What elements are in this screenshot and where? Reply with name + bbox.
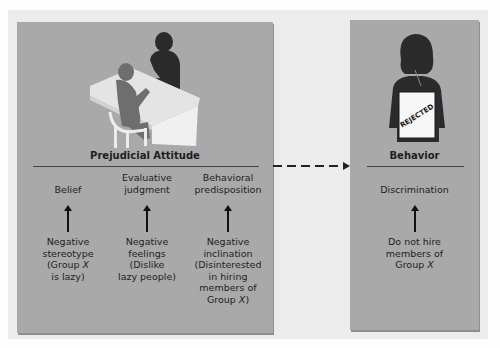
- up-arrow-icon: [67, 210, 69, 232]
- evaluative-judgment-column: Evaluative judgment Negative feelings (D…: [106, 172, 188, 312]
- arrowhead-icon: [343, 162, 350, 170]
- desc-line: inclination: [186, 248, 270, 260]
- label-line: Discrimination: [354, 184, 475, 196]
- interview-at-desk-icon: [88, 26, 208, 148]
- behavioral-predisposition-label: Behavioral predisposition: [186, 172, 270, 195]
- dashed-connector-arrow: [273, 165, 345, 167]
- belief-label: Belief: [28, 184, 108, 196]
- up-arrow-icon: [414, 210, 416, 232]
- up-arrow-icon: [146, 210, 148, 232]
- label-line: Belief: [28, 184, 108, 196]
- label-line: judgment: [106, 184, 188, 196]
- up-arrow-icon: [227, 210, 229, 232]
- discrimination-label: Discrimination: [354, 184, 475, 196]
- desc-line: Do not hire: [354, 236, 475, 248]
- desc-line: stereotype: [28, 248, 108, 260]
- belief-description: Negative stereotype (Group X is lazy): [28, 236, 108, 282]
- desc-line: Negative: [28, 236, 108, 248]
- desc-line: is lazy): [28, 271, 108, 283]
- desc-line: (Dislike: [106, 259, 188, 271]
- discrimination-description: Do not hire members of Group X: [354, 236, 475, 271]
- left-panel-divider: [33, 166, 259, 167]
- evaluative-judgment-label: Evaluative judgment: [106, 172, 188, 195]
- behavioral-predisposition-column: Behavioral predisposition Negative incli…: [186, 172, 270, 312]
- desc-line: (Disinterested: [186, 259, 270, 271]
- desc-line: feelings: [106, 248, 188, 260]
- evaluative-judgment-description: Negative feelings (Dislike lazy people): [106, 236, 188, 282]
- desc-line: lazy people): [106, 271, 188, 283]
- label-line: Evaluative: [106, 172, 188, 184]
- label-line: predisposition: [186, 184, 270, 196]
- prejudicial-attitude-title: Prejudicial Attitude: [60, 150, 230, 161]
- right-panel-divider: [367, 166, 464, 167]
- desc-line: Group X: [354, 259, 475, 271]
- desc-line: Negative: [106, 236, 188, 248]
- label-line: Behavioral: [186, 172, 270, 184]
- desc-line: (Group X: [28, 259, 108, 271]
- desc-line: members of: [186, 282, 270, 294]
- desc-line: Group X): [186, 294, 270, 306]
- discrimination-column: Discrimination Do not hire members of Gr…: [354, 172, 475, 292]
- behavioral-predisposition-description: Negative inclination (Disinterested in h…: [186, 236, 270, 306]
- rejected-person-icon: REJECTED: [381, 30, 451, 142]
- belief-column: Belief Negative stereotype (Group X is l…: [28, 172, 108, 312]
- behavior-title: Behavior: [350, 150, 479, 161]
- desc-line: Negative: [186, 236, 270, 248]
- desc-line: in hiring: [186, 271, 270, 283]
- desc-line: members of: [354, 248, 475, 260]
